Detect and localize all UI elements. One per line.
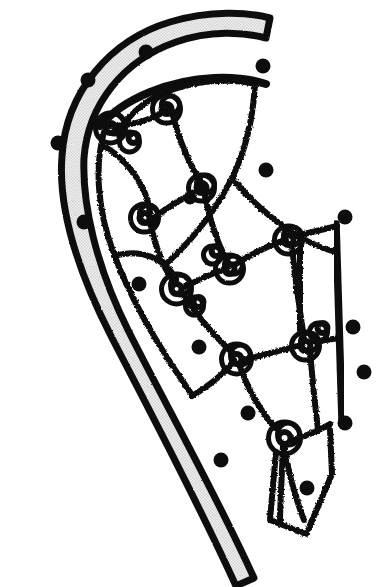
lacrosse-head-drawing bbox=[0, 0, 378, 587]
peg-top-1 bbox=[139, 45, 154, 60]
peg-right-5 bbox=[338, 416, 353, 431]
peg-right-6 bbox=[300, 481, 315, 496]
peg-left-3 bbox=[77, 215, 92, 230]
peg-right-1 bbox=[259, 163, 274, 178]
peg-right-4 bbox=[357, 365, 372, 380]
peg-mid-2 bbox=[214, 453, 229, 468]
peg-right-3 bbox=[346, 320, 361, 335]
peg-right-2 bbox=[338, 210, 353, 225]
peg-left-5 bbox=[192, 340, 207, 355]
peg-top-2 bbox=[256, 59, 271, 74]
lacrosse-head-figure: Lacrosse stick head with strung pocket bbox=[0, 0, 378, 587]
peg-left-2 bbox=[51, 136, 66, 151]
peg-left-4 bbox=[132, 277, 147, 292]
peg-left-6 bbox=[241, 406, 256, 421]
peg-mid-1 bbox=[184, 192, 197, 205]
peg-left-1 bbox=[81, 73, 96, 88]
strand-h18 bbox=[280, 446, 283, 522]
